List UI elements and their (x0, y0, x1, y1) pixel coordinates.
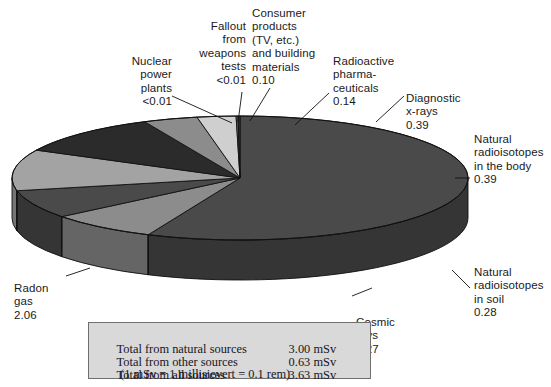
label-nuclear-power: Nuclear power plants <0.01 (60, 55, 172, 109)
totals-row: Total from all sources3.63 mSv (98, 353, 370, 366)
leader-line-cosmic-rays (352, 288, 372, 296)
totals-row-value: 3.63 mSv (289, 368, 337, 383)
label-soil-isotopes: Natural radioisotopes in soil 0.28 (474, 266, 551, 320)
label-radon-gas: Radon gas 2.06 (14, 282, 74, 322)
label-body-isotopes: Natural radioisotopes in the body 0.39 (474, 133, 551, 187)
leader-line-soil-isotopes (452, 270, 470, 288)
pie-slices-group (12, 116, 468, 280)
label-diagnostic-xrays: Diagnostic x-rays 0.39 (406, 92, 492, 132)
totals-row: Total from natural sources3.00 mSv (98, 327, 370, 340)
totals-box: Total from natural sources3.00 mSv Total… (88, 322, 371, 379)
totals-row-name: Total from all sources (117, 368, 289, 383)
leader-line-radon-gas (66, 268, 90, 276)
label-fallout: Fallout from weapons tests <0.01 (160, 20, 246, 87)
totals-row: Total from other sources0.63 mSv (98, 340, 370, 353)
pie-chart-figure: Nuclear power plants <0.01 Fallout from … (0, 0, 551, 387)
label-consumer-products: Consumer products (TV, etc.) and buildin… (252, 7, 344, 87)
